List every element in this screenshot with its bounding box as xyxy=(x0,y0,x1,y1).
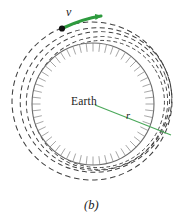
figure-panel-b: v Earth r (b) xyxy=(0,0,189,223)
launch-point-dot xyxy=(59,25,65,31)
earth-label: Earth xyxy=(71,95,97,107)
velocity-label: v xyxy=(66,5,71,20)
panel-caption-label: (b) xyxy=(84,198,99,213)
radius-label: r xyxy=(126,110,130,121)
orbit-diagram-svg xyxy=(0,0,189,223)
